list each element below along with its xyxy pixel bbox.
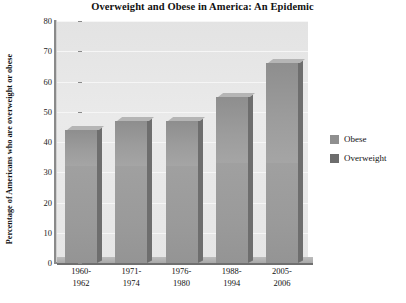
bar-segment-obese[interactable] — [65, 130, 97, 166]
y-axis-tick-label: 20 — [28, 198, 52, 208]
y-axis-title: Percentage of Americans who are overweig… — [0, 36, 23, 262]
y-axis-tick-label: 0 — [28, 258, 52, 268]
x-axis-tick-labels: 1960-19621971-19741976-19801988-19942005… — [57, 266, 308, 300]
bar-top-face — [218, 93, 255, 97]
y-axis-tick-label: 60 — [28, 77, 52, 87]
legend-swatch-icon-obese — [330, 135, 339, 144]
bar-stack — [115, 121, 147, 263]
x-axis-tick-label-line: 2006 — [254, 278, 310, 290]
chart-container: Overweight and Obese in America: An Epid… — [0, 0, 406, 303]
x-axis-tick-label: 2005-2006 — [254, 266, 310, 289]
x-axis-tick-label-line: 1988- — [204, 266, 260, 278]
x-axis-tick-label-line: 1980 — [154, 278, 210, 290]
bar-series-group — [57, 21, 308, 263]
legend-swatch-icon-overweight — [330, 154, 339, 163]
bar-segment-overweight[interactable] — [166, 166, 198, 263]
bar-segment-overweight[interactable] — [65, 166, 97, 263]
x-axis-tick-label-line: 1960- — [53, 266, 109, 278]
chart-title: Overweight and Obese in America: An Epid… — [60, 1, 345, 12]
y-axis-tick-label: 70 — [28, 46, 52, 56]
x-axis-tick-label-line: 1962 — [53, 278, 109, 290]
bar-segment-obese[interactable] — [166, 121, 198, 166]
bar-side-face — [248, 94, 253, 263]
bar-side-face — [97, 127, 102, 263]
x-axis-tick-label: 1976-1980 — [154, 266, 210, 289]
y-axis-tick-label: 30 — [28, 167, 52, 177]
legend: Obese Overweight — [330, 133, 404, 171]
bar-segment-obese[interactable] — [266, 63, 298, 163]
bar-segment-obese[interactable] — [115, 121, 147, 166]
x-axis-tick-label: 1960-1962 — [53, 266, 109, 289]
bar-top-face — [67, 126, 104, 130]
bar-segment-overweight[interactable] — [115, 166, 147, 263]
bar-stack — [216, 97, 248, 263]
y-axis-title-line1: Percentage of Americans who are — [5, 126, 14, 244]
bar-segment-overweight[interactable] — [216, 163, 248, 263]
bar-stack — [65, 130, 97, 263]
x-axis-tick-label-line: 1974 — [103, 278, 159, 290]
x-axis-tick-label: 1971-1974 — [103, 266, 159, 289]
legend-item-overweight[interactable]: Overweight — [330, 152, 404, 164]
y-axis-tick-label: 10 — [28, 228, 52, 238]
bar-segment-overweight[interactable] — [266, 163, 298, 263]
plot-floor-edge — [57, 263, 313, 265]
y-axis-title-text: Percentage of Americans who are overweig… — [5, 54, 16, 245]
y-axis-tick-label: 50 — [28, 107, 52, 117]
y-axis-tick-labels: 01020304050607080 — [26, 0, 52, 303]
x-axis-tick-label: 1988-1994 — [204, 266, 260, 289]
legend-label-obese: Obese — [344, 134, 367, 144]
bar-segment-obese[interactable] — [216, 97, 248, 164]
bar-stack — [266, 63, 298, 263]
bar-top-face — [117, 117, 154, 121]
x-axis-tick-label-line: 1976- — [154, 266, 210, 278]
bar-side-face — [198, 118, 203, 263]
bar-top-face — [268, 59, 305, 63]
y-axis-tick-label: 40 — [28, 137, 52, 147]
y-axis-title-line2: overweight or obese — [5, 54, 14, 124]
bar-side-face — [298, 61, 303, 263]
x-axis-tick-label-line: 1994 — [204, 278, 260, 290]
bar-top-face — [168, 117, 205, 121]
y-axis-tick-mark — [78, 263, 82, 264]
bar-side-face — [147, 118, 152, 263]
legend-item-obese[interactable]: Obese — [330, 133, 404, 145]
bar-stack — [166, 121, 198, 263]
legend-label-overweight: Overweight — [344, 153, 387, 163]
x-axis-tick-label-line: 1971- — [103, 266, 159, 278]
y-axis-tick-label: 80 — [28, 16, 52, 26]
x-axis-tick-label-line: 2005- — [254, 266, 310, 278]
